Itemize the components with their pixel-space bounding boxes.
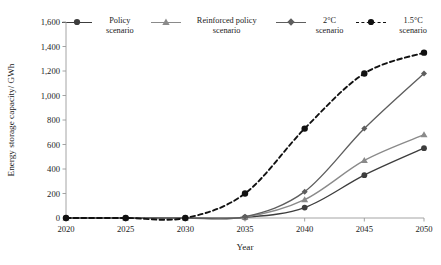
y-axis-title-text: Energy storage capacity/ GWh [6,63,16,176]
x-tick-label: 2050 [415,224,432,234]
series-line [66,148,424,218]
x-axis-title-text: Year [237,242,254,252]
y-tick-label: 1,600 [41,17,60,27]
plot-area: Energy storage capacity/ GWh 02004006008… [0,0,441,265]
x-axis-title: Year [237,242,254,252]
y-tick-label: 0 [56,213,60,223]
triangle-marker-icon [420,131,427,137]
y-axis-tick-labels: 02004006008001,0001,2001,4001,600 [41,17,60,223]
y-tick-label: 600 [47,140,60,150]
circle-marker-icon [301,125,307,131]
x-tick-label: 2040 [296,224,313,234]
circle-marker-icon [122,215,128,221]
x-tick-label: 2020 [57,224,74,234]
y-axis-title: Energy storage capacity/ GWh [6,63,16,176]
triangle-marker-icon [361,157,368,163]
y-tick-label: 400 [47,164,60,174]
circle-marker-icon [421,145,427,151]
y-tick-label: 1,200 [41,66,60,76]
circle-marker-icon [63,215,69,221]
series-group [62,49,427,221]
x-axis-tick-labels: 2020202520302035204020452050 [57,224,432,234]
series-1-5-c-scenario [63,49,427,221]
y-tick-label: 1,400 [41,42,60,52]
y-tick-label: 1,000 [41,91,60,101]
circle-marker-icon [182,215,188,221]
series-line [66,73,424,219]
circle-marker-icon [242,190,248,196]
series-2-c-scenario [63,70,427,221]
y-tick-label: 800 [47,115,60,125]
chart-svg: Energy storage capacity/ GWh 02004006008… [0,0,441,265]
x-tick-label: 2030 [177,224,194,234]
chart-root: Policy scenario Reinforced policy scenar… [0,0,441,265]
circle-marker-icon [302,205,308,211]
circle-marker-icon [421,49,427,55]
series-reinforced-policy-scenario [62,131,427,220]
x-tick-label: 2035 [236,224,253,234]
y-tick-label: 200 [47,189,60,199]
series-line [66,135,424,219]
triangle-marker-icon [301,196,308,202]
x-tick-label: 2045 [356,224,373,234]
circle-marker-icon [361,172,367,178]
x-tick-label: 2025 [117,224,134,234]
circle-marker-icon [361,70,367,76]
